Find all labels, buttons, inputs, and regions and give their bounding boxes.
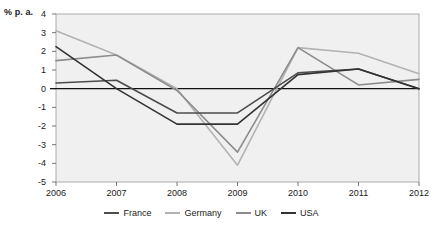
legend-swatch-icon (281, 212, 296, 214)
legend-swatch-icon (104, 212, 119, 214)
legend-label: USA (300, 208, 319, 218)
y-axis-tick-label: -2 (24, 121, 46, 131)
y-axis-tick-label: 0 (24, 84, 46, 94)
legend-item-uk[interactable]: UK (236, 208, 268, 218)
x-axis-tick-label: 2007 (97, 188, 137, 198)
legend-item-usa[interactable]: USA (281, 208, 319, 218)
x-axis-tick-label: 2006 (36, 188, 76, 198)
y-axis-tick-label: -3 (24, 140, 46, 150)
y-axis-tick-label: -1 (24, 102, 46, 112)
legend-item-germany[interactable]: Germany (165, 208, 221, 218)
y-axis-tick-label: 1 (24, 65, 46, 75)
y-axis-tick-label: -5 (24, 177, 46, 187)
legend-swatch-icon (236, 212, 251, 214)
x-axis-tick-label: 2011 (339, 188, 379, 198)
legend-item-france[interactable]: France (104, 208, 151, 218)
x-axis-tick-label: 2010 (278, 188, 318, 198)
x-axis-tick-label: 2012 (399, 188, 434, 198)
y-axis-tick-label: 3 (24, 28, 46, 38)
legend-label: UK (255, 208, 268, 218)
plot-background (56, 14, 419, 182)
plot-area: 43210-1-2-3-4-52006200720082009201020112… (0, 0, 423, 210)
y-axis-tick-label: 4 (24, 9, 46, 19)
x-axis-tick-label: 2009 (218, 188, 258, 198)
y-axis-tick-label: 2 (24, 46, 46, 56)
x-axis-tick-label: 2008 (157, 188, 197, 198)
legend-label: France (123, 208, 151, 218)
y-axis-tick-label: -4 (24, 158, 46, 168)
legend-label: Germany (184, 208, 221, 218)
plot-svg (0, 0, 423, 210)
legend-swatch-icon (165, 212, 180, 214)
chart-legend: FranceGermanyUKUSA (0, 208, 423, 218)
